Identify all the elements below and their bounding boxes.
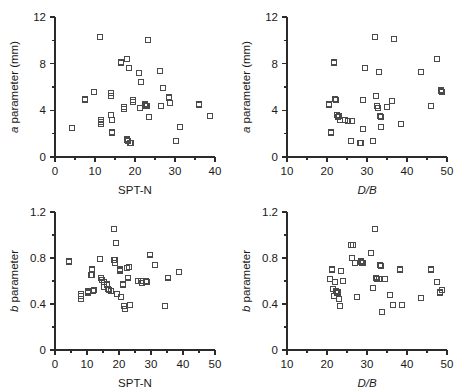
y-tick-label: 1.2 — [262, 206, 278, 218]
data-point-marker — [148, 252, 153, 257]
data-point-marker — [355, 295, 360, 300]
data-point-marker — [360, 97, 365, 102]
data-point-marker — [332, 60, 337, 65]
x-axis-ticks: 1020304050 — [281, 157, 454, 177]
data-point-marker — [177, 269, 182, 274]
data-point-marker — [158, 68, 163, 73]
x-tick-label: 10 — [89, 165, 102, 177]
data-point-marker — [137, 106, 142, 111]
data-point-marker — [91, 89, 96, 94]
panel-b-vs-db: 102030405000.40.81.2D/Bb parameter — [232, 195, 459, 392]
data-point-marker — [419, 69, 424, 74]
data-point-marker — [98, 257, 103, 262]
x-tick-label: 30 — [361, 358, 374, 370]
y-tick-label: 4 — [40, 104, 47, 116]
data-point-marker — [90, 267, 95, 272]
data-point-marker — [388, 292, 393, 297]
x-tick-label: 10 — [81, 358, 94, 370]
data-point-marker — [338, 304, 343, 309]
data-point-marker — [363, 66, 368, 71]
x-tick-label: 30 — [145, 358, 158, 370]
x-tick-label: 0 — [52, 358, 58, 370]
data-point-marker — [69, 125, 74, 130]
data-point-marker — [391, 303, 396, 308]
data-point-marker — [389, 99, 394, 104]
data-point-marker — [380, 310, 385, 315]
data-point-marker — [139, 80, 144, 85]
x-tick-label: 40 — [401, 358, 414, 370]
data-point-marker — [361, 127, 366, 132]
data-point-marker — [392, 37, 397, 42]
y-tick-label: 8 — [40, 58, 46, 70]
x-tick-label: 40 — [177, 358, 190, 370]
x-tick-label: 50 — [441, 165, 454, 177]
data-point-marker — [398, 267, 403, 272]
plot-area-b-vs-sptn: 0102030405000.40.81.2SPT-Nb parameter — [0, 195, 227, 392]
data-point-marker — [435, 57, 440, 62]
x-tick-label: 30 — [361, 165, 374, 177]
y-tick-label: 0 — [40, 151, 46, 163]
y-axis-ticks: 00.40.81.2 — [30, 206, 55, 356]
y-axis-ticks: 04812 — [33, 11, 55, 163]
data-point-marker — [152, 262, 157, 267]
x-axis-title: SPT-N — [118, 377, 152, 389]
data-point-marker — [166, 275, 171, 280]
data-point-marker — [385, 104, 390, 109]
data-point-marker — [125, 275, 130, 280]
plot-area-a-vs-sptn: 01020304004812SPT-Na parameter (mm) — [0, 0, 227, 195]
y-tick-label: 12 — [33, 11, 46, 23]
data-point-marker — [383, 276, 388, 281]
data-point-marker — [400, 303, 405, 308]
plot-area-b-vs-db: 102030405000.40.81.2D/Bb parameter — [232, 195, 459, 392]
plot-area-a-vs-db: 102030405004812D/Ba parameter (mm) — [232, 0, 459, 195]
data-point-marker — [419, 296, 424, 301]
x-tick-label: 20 — [321, 165, 334, 177]
data-point-marker — [167, 95, 172, 100]
x-tick-label: 10 — [281, 358, 294, 370]
y-tick-label: 0 — [272, 151, 278, 163]
x-tick-label: 30 — [169, 165, 182, 177]
data-point-marker — [435, 280, 440, 285]
data-point-marker — [429, 267, 434, 272]
y-axis-ticks: 00.40.81.2 — [262, 206, 287, 356]
data-point-marker — [98, 34, 103, 39]
y-tick-label: 8 — [272, 58, 278, 70]
data-point-marker — [174, 138, 179, 143]
figure-scatter-matrix: 01020304004812SPT-Na parameter (mm) 1020… — [0, 0, 459, 392]
data-point-marker — [110, 130, 115, 135]
panel-b-vs-sptn: 0102030405000.40.81.2SPT-Nb parameter — [0, 195, 227, 392]
y-tick-label: 4 — [272, 104, 279, 116]
data-point-marker — [111, 227, 116, 232]
x-tick-label: 0 — [52, 165, 58, 177]
y-axis-title: b parameter — [8, 250, 20, 312]
data-point-marker — [136, 71, 141, 76]
x-axis-title: D/B — [357, 377, 377, 389]
data-point-marker — [373, 227, 378, 232]
axes-b-vs-db — [287, 212, 447, 350]
data-point-marker — [119, 60, 124, 65]
data-point-marker — [177, 124, 182, 129]
data-point-marker — [159, 103, 164, 108]
x-tick-label: 20 — [321, 358, 334, 370]
data-point-marker — [168, 101, 173, 106]
data-point-marker — [145, 38, 150, 43]
data-point-marker — [163, 304, 168, 309]
data-point-marker — [399, 122, 404, 127]
y-axis-ticks: 04812 — [265, 11, 287, 163]
data-point-marker — [377, 69, 382, 74]
axes-a-vs-sptn — [55, 17, 215, 157]
x-tick-label: 20 — [113, 358, 126, 370]
x-axis-ticks: 010203040 — [52, 157, 222, 177]
y-axis-title: b parameter — [240, 250, 252, 312]
x-axis-ticks: 01020304050 — [52, 350, 222, 370]
data-points — [69, 34, 212, 145]
y-tick-label: 0 — [272, 344, 278, 356]
y-tick-label: 0.4 — [262, 298, 279, 310]
data-point-marker — [329, 130, 334, 135]
data-point-marker — [373, 34, 378, 39]
data-point-marker — [208, 114, 213, 119]
data-point-marker — [89, 273, 94, 278]
y-axis-title: a parameter (mm) — [8, 41, 20, 133]
data-points — [328, 227, 445, 315]
data-point-marker — [371, 285, 376, 290]
